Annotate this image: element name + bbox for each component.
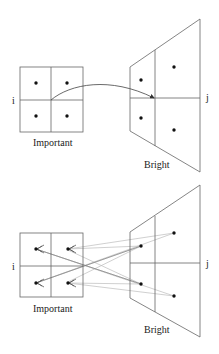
bright-points-2 [139, 231, 175, 297]
bright-points [139, 65, 175, 131]
diagram-canvas: i Important j Bright [0, 0, 219, 354]
axis-label-i: i [12, 95, 15, 106]
top-diagram: i Important j Bright [12, 19, 209, 172]
important-label-2: Important [33, 303, 73, 314]
important-grid-2 [20, 233, 83, 297]
correspondence-lines-dark [36, 246, 141, 284]
bright-label-2: Bright [144, 324, 170, 335]
bright-grid-2 [130, 185, 200, 337]
correspondence-lines [36, 233, 174, 296]
axis-label-i-2: i [12, 261, 15, 272]
axis-label-j-2: j [205, 258, 209, 269]
bright-grid [130, 19, 200, 172]
bottom-diagram: i Important j Bright [12, 185, 209, 337]
axis-label-j: j [205, 92, 209, 103]
important-label: Important [33, 137, 73, 148]
bright-label: Bright [144, 159, 170, 170]
